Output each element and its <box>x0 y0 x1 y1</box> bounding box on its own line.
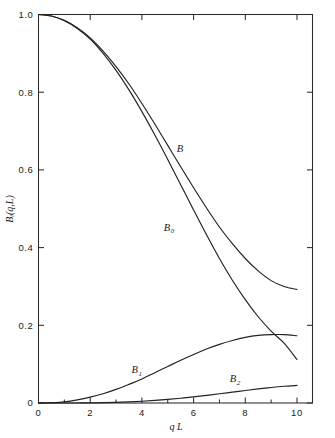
y-tick-label: 0.4 <box>18 242 33 253</box>
y-tick-label: 0 <box>28 397 34 408</box>
y-tick-label: 0.8 <box>18 87 33 98</box>
x-tick-label: 10 <box>291 407 303 418</box>
x-tick-label: 2 <box>87 407 93 418</box>
chart-background <box>0 0 335 438</box>
y-tick-label: 0.6 <box>18 164 33 175</box>
y-tick-label: 1.0 <box>18 9 33 20</box>
x-tick-label: 8 <box>242 407 248 418</box>
x-tick-label: 6 <box>191 407 197 418</box>
x-tick-label: 0 <box>36 407 42 418</box>
y-tick-label: 0.2 <box>18 320 33 331</box>
y-axis-title: Bᵢ(q,L) <box>4 195 16 223</box>
x-axis-title: q L <box>169 421 183 432</box>
figure-container: 0246810 00.20.40.60.81.0 BB0B1B2 q L Bᵢ(… <box>0 0 335 438</box>
curve-label-B: B <box>177 143 184 154</box>
line-chart: 0246810 00.20.40.60.81.0 BB0B1B2 q L Bᵢ(… <box>0 0 335 438</box>
x-tick-label: 4 <box>139 407 145 418</box>
